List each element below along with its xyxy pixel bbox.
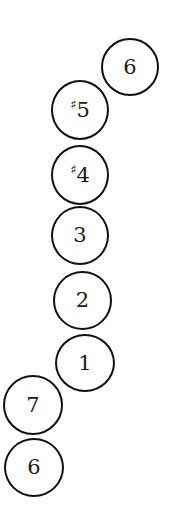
note-label: 7 [26,395,39,416]
note-circle-sharp-5: ♯ 5 [51,80,109,140]
note-label: 6 [123,57,136,78]
note-label: 2 [76,290,89,311]
note-degree: 6 [27,457,40,478]
note-degree: 3 [73,225,86,246]
note-degree: 5 [76,100,89,121]
note-degree: 4 [76,165,89,186]
note-circle-7: 7 [3,375,63,435]
note-degree: 2 [76,290,89,311]
note-label: ♯ 4 [70,165,90,186]
note-label: 3 [73,225,86,246]
note-circle-6-high: 6 [101,38,159,96]
note-circle-2: 2 [53,271,112,330]
note-label: 1 [78,353,91,374]
note-degree: 6 [123,57,136,78]
note-circle-1: 1 [55,334,115,392]
scale-degree-diagram: 6 ♯ 5 ♯ 4 3 2 1 7 [0,0,176,530]
note-circle-6-low: 6 [4,438,64,497]
note-circle-3: 3 [51,206,109,265]
note-label: 6 [27,457,40,478]
note-degree: 7 [26,395,39,416]
note-circle-sharp-4: ♯ 4 [51,145,109,205]
note-label: ♯ 5 [70,100,90,121]
note-degree: 1 [78,353,91,374]
